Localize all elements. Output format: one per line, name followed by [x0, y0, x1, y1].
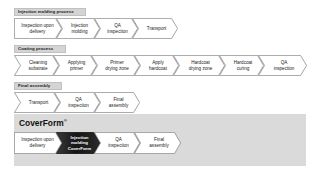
step-label: Primer drying zone [91, 60, 140, 71]
step-label: Final assembly [134, 137, 181, 148]
step-transport-final[interactable]: Transport [14, 92, 60, 113]
step-qa-inspection-final[interactable]: QA inspection [54, 92, 100, 113]
step-label: Applying primer [53, 60, 97, 71]
step-primer-drying-zone[interactable]: Primer drying zone [91, 55, 140, 76]
section-header-coating-process: Coating process [14, 45, 66, 53]
step-cf-injection-molding-coverform[interactable]: Injection molding CoverForm [56, 132, 100, 154]
step-label: Injection molding [56, 23, 100, 34]
step-label: Hardcoat curing [219, 60, 264, 71]
step-transport[interactable]: Transport [132, 18, 178, 39]
step-label: Transport [14, 100, 60, 106]
section-header-label: Final assembly [18, 84, 50, 88]
registered-trademark-icon: ® [64, 118, 67, 123]
step-hardcoat-curing[interactable]: Hardcoat curing [219, 55, 264, 76]
step-inspection-upon-delivery[interactable]: Inspection upon delivery [14, 18, 62, 39]
step-label: QA inspection [94, 137, 140, 148]
step-label: QA inspection [54, 97, 100, 108]
chevron-row-final-assembly: Transport QA inspection Final assembly [14, 92, 140, 113]
section-header-label: Coating process [18, 47, 53, 51]
step-label: Cleaning substrate [14, 60, 59, 71]
step-label: Hardcoat drying zone [173, 60, 225, 71]
step-label: Transport [132, 26, 178, 32]
chevron-row-coverform: Inspection upon delivery Injection moldi… [14, 132, 181, 154]
step-qa-inspection[interactable]: QA inspection [94, 18, 138, 39]
chevron-row-coating-process: Cleaning substrate Applying primer Prime… [14, 55, 307, 76]
step-label: Apply hardcoat [134, 60, 179, 71]
process-flow-diagram: Injection molding process Inspection upo… [0, 0, 318, 178]
step-qa-inspection-coating[interactable]: QA inspection [258, 55, 307, 76]
section-header-final-assembly: Final assembly [14, 82, 62, 90]
step-cleaning-substrate[interactable]: Cleaning substrate [14, 55, 59, 76]
coverform-title: CoverForm® [19, 119, 67, 127]
step-label: Injection molding CoverForm [56, 135, 100, 151]
coverform-title-text: CoverForm [19, 118, 64, 128]
step-cf-final-assembly[interactable]: Final assembly [134, 132, 181, 154]
step-label: QA inspection [94, 23, 138, 34]
section-header-label: Injection molding process [18, 10, 74, 14]
step-hardcoat-drying-zone[interactable]: Hardcoat drying zone [173, 55, 225, 76]
step-cf-qa-inspection[interactable]: QA inspection [94, 132, 140, 154]
step-cf-inspection-upon-delivery[interactable]: Inspection upon delivery [14, 132, 62, 154]
step-applying-primer[interactable]: Applying primer [53, 55, 97, 76]
step-final-assembly[interactable]: Final assembly [94, 92, 140, 113]
step-label: Inspection upon delivery [14, 23, 62, 34]
step-label: QA inspection [258, 60, 307, 71]
step-injection-molding[interactable]: Injection molding [56, 18, 100, 39]
section-header-injection-molding-process: Injection molding process [14, 8, 86, 16]
step-apply-hardcoat[interactable]: Apply hardcoat [134, 55, 179, 76]
step-label: Final assembly [94, 97, 140, 108]
chevron-row-injection-molding-process: Inspection upon delivery Injection moldi… [14, 18, 178, 39]
step-label: Inspection upon delivery [14, 137, 62, 148]
